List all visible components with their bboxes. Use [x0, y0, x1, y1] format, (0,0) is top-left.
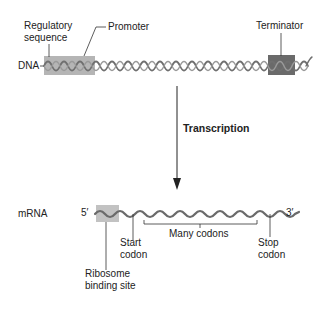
stop-codon-label: Stop codon: [258, 237, 285, 261]
start-codon-label: Start codon: [120, 237, 147, 261]
transcription-label: Transcription: [183, 122, 250, 134]
ribosome-binding-site-label: Ribosome binding site: [85, 268, 136, 292]
many-codons-label: Many codons: [169, 228, 228, 240]
regulatory-label-line2: sequence: [24, 32, 72, 44]
regulatory-label-line1: Regulatory: [24, 20, 72, 32]
regulatory-sequence-label: Regulatory sequence: [24, 20, 72, 44]
mrna-label: mRNA: [18, 208, 47, 220]
promoter-label: Promoter: [108, 21, 149, 33]
stop-codon-line1: Stop: [258, 237, 285, 249]
gene-expression-diagram: [0, 0, 320, 309]
rbs-line2: binding site: [85, 280, 136, 292]
terminator-label: Terminator: [256, 20, 303, 32]
dna-label: DNA: [18, 60, 39, 72]
many-codons-bracket: [144, 220, 257, 228]
start-codon-line1: Start: [120, 237, 147, 249]
rbs-line1: Ribosome: [85, 268, 136, 280]
stop-codon-line2: codon: [258, 249, 285, 261]
start-codon-line2: codon: [120, 249, 147, 261]
mrna-strand: [95, 211, 299, 217]
promoter-leader-line: [84, 27, 106, 56]
five-prime-label: 5′: [81, 207, 88, 219]
transcription-arrow-head: [173, 178, 181, 190]
three-prime-label: 3′: [286, 207, 293, 219]
